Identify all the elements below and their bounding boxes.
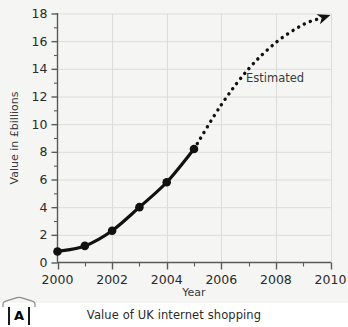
x-tick-label: 2004 bbox=[151, 272, 183, 287]
y-tick-label: 14 bbox=[32, 61, 48, 76]
x-tick-label: 2002 bbox=[96, 272, 128, 287]
y-tick-label: 12 bbox=[32, 89, 48, 104]
data-point-marker bbox=[81, 242, 90, 251]
y-axis-title: Value in £billions bbox=[8, 91, 21, 184]
x-axis-title: Year bbox=[181, 286, 206, 299]
estimated-annotation-label: Estimated bbox=[246, 71, 304, 85]
data-point-marker bbox=[162, 178, 171, 187]
data-point-marker bbox=[190, 145, 199, 154]
chart-panel: 024681012141618 200020022004200620082010… bbox=[0, 0, 348, 303]
data-point-marker bbox=[108, 226, 117, 235]
y-tick-label: 10 bbox=[32, 117, 48, 132]
line-chart: 024681012141618 200020022004200620082010… bbox=[0, 0, 348, 303]
y-tick-label: 4 bbox=[40, 200, 48, 215]
y-tick-label: 8 bbox=[40, 144, 48, 159]
x-tick-label: 2010 bbox=[315, 272, 347, 287]
y-tick-label: 2 bbox=[40, 227, 48, 242]
data-point-marker bbox=[53, 247, 62, 256]
figure-caption-text: Value of UK internet shopping bbox=[0, 308, 348, 322]
x-tick-label: 2006 bbox=[205, 272, 237, 287]
figure-root: 024681012141618 200020022004200620082010… bbox=[0, 0, 348, 327]
figure-caption-strip: A Value of UK internet shopping bbox=[0, 303, 348, 327]
y-tick-label: 6 bbox=[40, 172, 48, 187]
x-tick-label: 2000 bbox=[42, 272, 74, 287]
y-tick-label: 18 bbox=[32, 6, 48, 21]
chart-background bbox=[0, 0, 348, 303]
y-tick-label: 0 bbox=[40, 255, 48, 270]
y-tick-label: 16 bbox=[32, 34, 48, 49]
data-point-marker bbox=[135, 203, 144, 212]
x-tick-label: 2008 bbox=[260, 272, 292, 287]
